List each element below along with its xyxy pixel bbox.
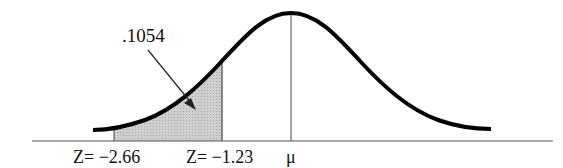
z-right-label: Z= −1.23 [186, 147, 253, 167]
arrow-line [148, 50, 192, 104]
mean-label: μ [286, 147, 296, 167]
z-left-label: Z= −2.66 [73, 147, 140, 167]
normal-curve-diagram: .1054 Z= −2.66 Z= −1.23 μ [0, 0, 563, 168]
area-label: .1054 [122, 25, 165, 46]
